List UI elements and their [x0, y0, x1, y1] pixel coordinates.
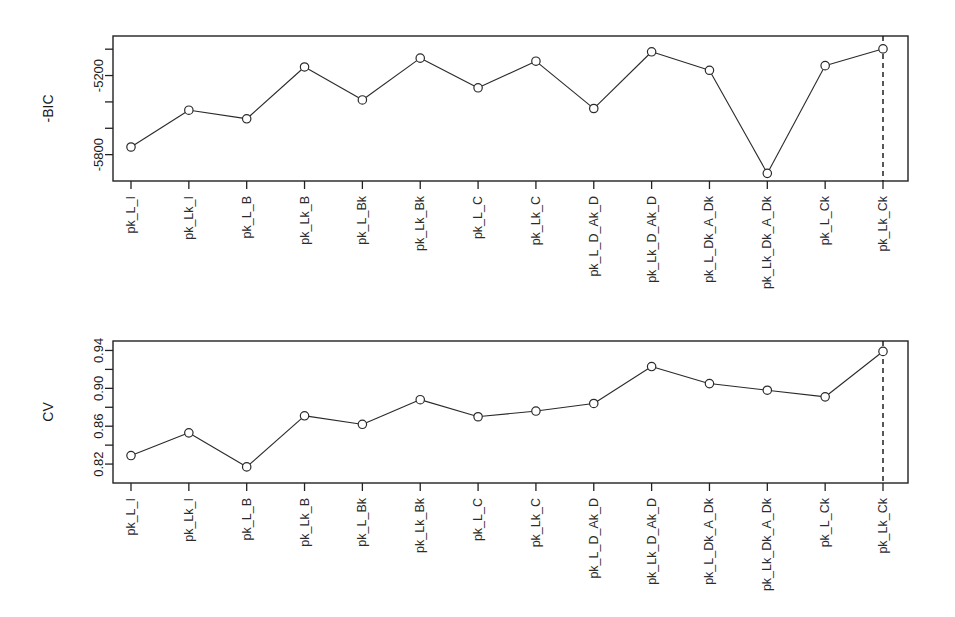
data-line-segment: [597, 369, 648, 401]
data-point[interactable]: [763, 386, 771, 394]
x-tick-label: pk_Lk_B: [298, 498, 312, 547]
x-tick-label: pk_Lk_C: [529, 196, 543, 245]
y-tick-label: 0.90: [92, 376, 107, 401]
x-tick-label: pk_L_B: [240, 196, 254, 238]
x-tick-label: pk_L_Bk: [355, 195, 369, 244]
data-line-segment: [714, 384, 764, 390]
data-point[interactable]: [590, 104, 598, 112]
x-tick-label: pk_L_Dk_A_Dk: [702, 497, 716, 585]
x-tick-label: pk_Lk_Dk_A_Dk: [760, 195, 774, 289]
data-line-segment: [656, 53, 706, 69]
data-point[interactable]: [879, 45, 887, 53]
y-axis: 0.940.900.860.82: [92, 338, 114, 477]
x-tick-label: pk_L_Dk_A_Dk: [702, 195, 716, 283]
data-points: [127, 45, 887, 178]
data-point[interactable]: [705, 379, 713, 387]
y-tick-label: -5200: [92, 59, 107, 92]
data-point[interactable]: [358, 96, 366, 104]
x-tick-label: pk_Lk_Bk: [413, 497, 427, 553]
data-line-segment: [769, 69, 823, 169]
x-tick-label: pk_Lk_Dk_A_Dk: [760, 497, 774, 591]
x-tick-label: pk_L_I: [124, 498, 138, 536]
data-line-segment: [829, 50, 879, 64]
y-tick-label: -5800: [92, 138, 107, 171]
x-tick-label: pk_L_Bk: [355, 497, 369, 546]
y-axis-title: -BIC: [40, 95, 56, 123]
data-point[interactable]: [300, 412, 308, 420]
data-point[interactable]: [474, 84, 482, 92]
data-points: [127, 347, 887, 471]
data-point[interactable]: [416, 395, 424, 403]
data-point[interactable]: [647, 362, 655, 370]
x-tick-label: pk_L_C: [471, 196, 485, 239]
data-line-segment: [192, 435, 243, 465]
data-point[interactable]: [590, 399, 598, 407]
data-line-segment: [193, 111, 243, 118]
x-tick-label: pk_Lk_D_Ak_D: [645, 498, 659, 585]
data-point[interactable]: [185, 429, 193, 437]
data-series-line: [135, 354, 880, 465]
data-line-segment: [250, 70, 302, 116]
data-point[interactable]: [242, 463, 250, 471]
data-point[interactable]: [879, 347, 887, 355]
x-tick-label: pk_Lk_I: [182, 196, 196, 240]
x-tick-label: pk_Lk_I: [182, 498, 196, 542]
x-tick-label: pk_L_D_Ak_D: [587, 196, 601, 277]
data-line-segment: [828, 354, 879, 394]
bic-plot-svg: -5200-5800-BICpk_L_Ipk_Lk_Ipk_L_Bpk_Lk_B…: [0, 0, 955, 300]
data-line-segment: [597, 55, 649, 106]
data-line-segment: [482, 411, 531, 416]
data-series-line: [135, 50, 879, 170]
y-axis-title: CV: [40, 402, 56, 422]
cv-panel: 0.940.900.860.82CVpk_L_Ipk_Lk_Ipk_L_Bpk_…: [0, 305, 955, 617]
data-point[interactable]: [127, 143, 135, 151]
data-point[interactable]: [821, 61, 829, 69]
data-point[interactable]: [532, 57, 540, 65]
data-line-segment: [250, 419, 302, 465]
x-tick-label: pk_Lk_D_Ak_D: [645, 196, 659, 283]
data-line-segment: [366, 61, 417, 98]
x-tick-label: pk_Lk_Ck: [876, 195, 890, 251]
x-tick-label: pk_Lk_Bk: [413, 195, 427, 251]
x-tick-label: pk_Lk_Ck: [876, 497, 890, 553]
x-tick-label: pk_Lk_C: [529, 498, 543, 547]
cv-plot-svg: 0.940.900.860.82CVpk_L_Ipk_Lk_Ipk_L_Bpk_…: [0, 305, 955, 617]
x-tick-label: pk_L_B: [240, 498, 254, 540]
data-point[interactable]: [705, 66, 713, 74]
data-point[interactable]: [532, 407, 540, 415]
x-tick-label: pk_L_D_Ak_D: [587, 498, 601, 579]
figure-root: -5200-5800-BICpk_L_Ipk_Lk_Ipk_L_Bpk_Lk_B…: [0, 0, 955, 617]
y-tick-label: 0.82: [92, 451, 107, 476]
data-point[interactable]: [358, 420, 366, 428]
data-line-segment: [308, 69, 359, 98]
data-point[interactable]: [185, 106, 193, 114]
data-point[interactable]: [416, 54, 424, 62]
x-tick-label: pk_L_C: [471, 498, 485, 541]
data-line-segment: [712, 74, 766, 170]
x-axis: pk_L_Ipk_Lk_Ipk_L_Bpk_Lk_Bpk_L_Bkpk_Lk_B…: [124, 483, 890, 591]
y-tick-label: 0.86: [92, 414, 107, 439]
y-tick-label: 0.94: [92, 338, 107, 363]
data-point[interactable]: [647, 48, 655, 56]
data-line-segment: [482, 63, 532, 86]
data-line-segment: [135, 434, 185, 454]
data-point[interactable]: [127, 451, 135, 459]
x-tick-label: pk_L_Ck: [818, 195, 832, 245]
x-tick-label: pk_Lk_B: [298, 196, 312, 245]
y-axis: -5200-5800: [92, 49, 114, 171]
x-tick-label: pk_L_Ck: [818, 497, 832, 547]
data-point[interactable]: [474, 413, 482, 421]
plot-frame: [113, 341, 908, 483]
x-axis: pk_L_Ipk_Lk_Ipk_L_Bpk_Lk_Bpk_L_Bkpk_Lk_B…: [124, 181, 890, 289]
x-tick-label: pk_L_I: [124, 196, 138, 234]
data-point[interactable]: [821, 393, 829, 401]
plot-frame: [113, 36, 908, 181]
data-point[interactable]: [763, 169, 771, 177]
data-point[interactable]: [242, 115, 250, 123]
data-line-segment: [771, 391, 821, 397]
data-line-segment: [309, 416, 359, 423]
bic-panel: -5200-5800-BICpk_L_Ipk_Lk_Ipk_L_Bpk_Lk_B…: [0, 0, 955, 300]
data-line-segment: [539, 64, 590, 106]
data-line-segment: [366, 401, 416, 422]
data-point[interactable]: [300, 63, 308, 71]
